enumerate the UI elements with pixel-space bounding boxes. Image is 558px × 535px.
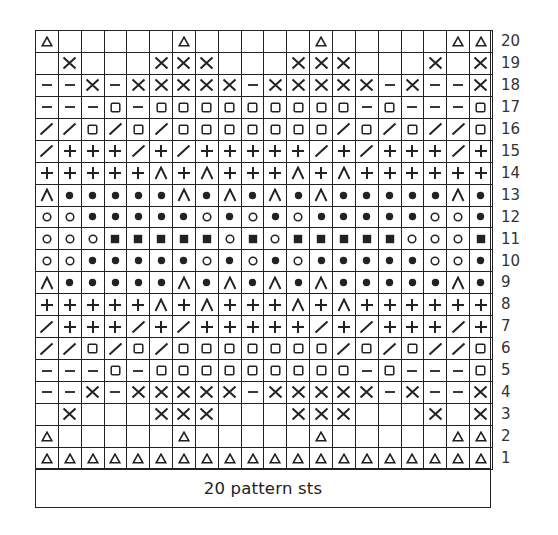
stitch-cell [218, 250, 241, 272]
stitch-cell [218, 31, 241, 53]
stitch-cell [36, 140, 59, 162]
stitch-cell [355, 425, 378, 447]
pattern-stitch-count: 20 pattern sts [35, 469, 491, 508]
stitch-cell [58, 316, 81, 338]
slash-icon [310, 144, 332, 158]
row-number-label: 11 [501, 228, 520, 250]
stitch-cell [218, 162, 241, 184]
cross-icon [310, 56, 332, 70]
stitch-cell [470, 360, 493, 382]
stitch-cell [332, 360, 355, 382]
chart-row-14 [36, 162, 493, 184]
stitch-cell [81, 250, 104, 272]
filled-dot-icon [242, 191, 264, 200]
stitch-cell [310, 206, 333, 228]
stitch-cell [150, 52, 173, 74]
stitch-cell [218, 184, 241, 206]
open-square-icon [379, 365, 401, 376]
stitch-cell [401, 272, 424, 294]
plus-icon [82, 144, 104, 158]
stitch-cell [36, 316, 59, 338]
stitch-cell [58, 31, 81, 53]
plus-icon [424, 298, 446, 312]
triangle-icon [59, 453, 81, 464]
stitch-cell [195, 425, 218, 447]
slash-icon [447, 144, 469, 158]
stitch-cell [81, 316, 104, 338]
open-circle-icon [424, 212, 446, 222]
caret-icon [264, 188, 286, 202]
open-square-icon [264, 102, 286, 113]
stitch-cell [81, 140, 104, 162]
stitch-cell [36, 360, 59, 382]
stitch-cell [401, 250, 424, 272]
filled-square-icon [196, 234, 218, 244]
stitch-cell [378, 52, 401, 74]
open-circle-icon [447, 212, 469, 222]
stitch-cell [195, 250, 218, 272]
row-number-label: 6 [501, 337, 511, 359]
open-square-icon [470, 124, 492, 135]
row-number-label: 17 [501, 96, 520, 118]
open-square-icon [242, 365, 264, 376]
dash-icon [424, 105, 446, 109]
triangle-icon [173, 431, 195, 442]
stitch-cell [470, 206, 493, 228]
stitch-cell [150, 403, 173, 425]
stitch-cell [150, 272, 173, 294]
stitch-cell [195, 162, 218, 184]
open-square-icon [242, 124, 264, 135]
open-circle-icon [402, 234, 424, 244]
stitch-cell [127, 447, 150, 469]
filled-dot-icon [356, 212, 378, 221]
stitch-cell [218, 338, 241, 360]
dash-icon [36, 83, 58, 87]
filled-dot-icon [424, 278, 446, 287]
stitch-cell [150, 250, 173, 272]
stitch-cell [36, 184, 59, 206]
stitch-cell [287, 31, 310, 53]
stitch-cell [470, 338, 493, 360]
cross-icon [402, 385, 424, 399]
stitch-cell [424, 96, 447, 118]
stitch-cell [264, 162, 287, 184]
slash-icon [173, 144, 195, 158]
open-square-icon [287, 124, 309, 135]
filled-square-icon [287, 234, 309, 244]
open-square-icon [196, 102, 218, 113]
stitch-cell [36, 96, 59, 118]
stitch-cell [127, 425, 150, 447]
stitch-cell [310, 250, 333, 272]
stitch-cell [470, 162, 493, 184]
stitch-cell [173, 206, 196, 228]
stitch-cell [264, 294, 287, 316]
stitch-cell [470, 31, 493, 53]
stitch-cell [195, 447, 218, 469]
slash-icon [310, 320, 332, 334]
caret-icon [36, 276, 58, 290]
stitch-cell [310, 447, 333, 469]
stitch-cell [264, 338, 287, 360]
stitch-cell [58, 382, 81, 404]
slash-icon [36, 144, 58, 158]
dash-icon [59, 83, 81, 87]
stitch-cell [287, 250, 310, 272]
open-square-icon [402, 343, 424, 354]
stitch-cell [447, 228, 470, 250]
stitch-cell [332, 184, 355, 206]
chart-row-17 [36, 96, 493, 118]
stitch-cell [287, 382, 310, 404]
stitch-cell [241, 162, 264, 184]
triangle-icon [424, 453, 446, 464]
chart-row-5 [36, 360, 493, 382]
triangle-icon [173, 453, 195, 464]
stitch-cell [447, 162, 470, 184]
stitch-cell [447, 360, 470, 382]
stitch-cell [470, 228, 493, 250]
stitch-cell [195, 338, 218, 360]
stitch-cell [218, 52, 241, 74]
stitch-cell [36, 31, 59, 53]
cross-icon [264, 385, 286, 399]
stitch-cell [58, 184, 81, 206]
row-number-label: 5 [501, 359, 511, 381]
